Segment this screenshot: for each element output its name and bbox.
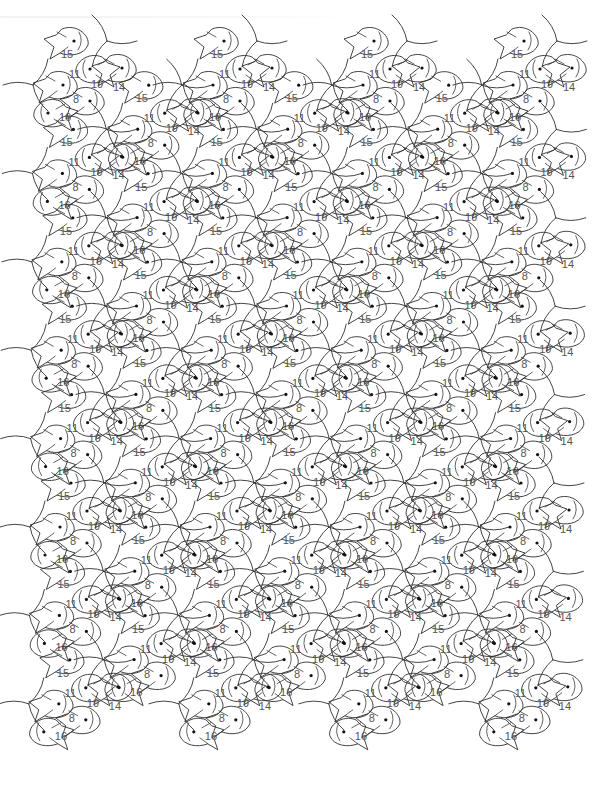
fish-eye-icon (237, 276, 240, 279)
fish-eye-icon (420, 66, 423, 69)
fish-eye-icon (357, 702, 360, 705)
fish-eye-icon (297, 84, 300, 87)
fish-eye-icon (495, 199, 498, 202)
fish-eye-icon (61, 83, 64, 86)
fish-eye-icon (270, 155, 273, 158)
fish-eye-icon (342, 553, 345, 556)
color-number-label: 15 (135, 269, 147, 281)
fish-eye-icon (84, 718, 87, 721)
fish-eye-icon (120, 66, 123, 69)
coloring-page: 8161115191481611151914816111519148161115… (0, 0, 608, 802)
fish-eye-icon (160, 674, 163, 677)
color-number-label: 19 (316, 122, 328, 134)
fish-eye-icon (237, 365, 240, 368)
fish-eye-icon (567, 508, 570, 511)
fish-eye-icon (311, 409, 314, 412)
color-number-label: 11 (217, 333, 228, 345)
color-number-label: 8 (519, 712, 525, 724)
fish-eye-icon (538, 156, 541, 159)
fish-eye-icon (72, 128, 75, 131)
color-number-label: 11 (65, 687, 76, 699)
fish-eye-icon (267, 597, 270, 600)
color-number-label: 11 (68, 156, 79, 168)
fish-eye-icon (445, 437, 448, 440)
color-number-label: 19 (240, 166, 252, 178)
fish-eye-icon (42, 730, 45, 733)
fish-eye-icon (119, 332, 122, 335)
fish-eye-icon (460, 674, 463, 677)
color-number-label: 19 (388, 520, 400, 532)
color-number-label: 15 (57, 578, 69, 590)
fish-eye-icon (117, 508, 120, 511)
fish-eye-icon (520, 393, 523, 396)
fish-eye-icon (534, 686, 537, 689)
fish-eye-icon (420, 155, 423, 158)
fish-eye-icon (85, 541, 88, 544)
color-number-label: 15 (136, 92, 148, 104)
color-number-label: 11 (69, 68, 80, 80)
fish-eye-icon (68, 658, 71, 661)
color-number-label: 19 (462, 653, 474, 665)
color-number-label: 19 (89, 432, 101, 444)
fish-eye-icon (568, 420, 571, 423)
color-number-label: 15 (285, 181, 297, 193)
color-number-label: 8 (148, 137, 154, 149)
fish-eye-icon (311, 377, 314, 380)
color-number-label: 8 (221, 358, 227, 370)
color-number-label: 19 (390, 255, 402, 267)
fish-eye-icon (192, 553, 195, 556)
color-number-label: 11 (517, 422, 528, 434)
color-number-label: 8 (373, 93, 379, 105)
color-number-label: 11 (369, 68, 380, 80)
color-number-label: 8 (448, 137, 454, 149)
color-number-label: 11 (216, 510, 227, 522)
color-number-label: 11 (366, 510, 377, 522)
color-number-label: 16 (59, 111, 71, 123)
color-number-label: 11 (440, 643, 451, 655)
color-number-label: 19 (463, 564, 475, 576)
color-number-label: 19 (315, 211, 327, 223)
fish-eye-icon (419, 243, 422, 246)
fish-eye-icon (345, 111, 348, 114)
fish-eye-icon (388, 99, 391, 102)
color-number-label: 15 (358, 490, 370, 502)
color-number-label: 8 (369, 712, 375, 724)
color-number-label: 19 (465, 299, 477, 311)
fish-eye-icon (313, 232, 316, 235)
fish-eye-icon (144, 614, 147, 617)
fish-eye-icon (294, 526, 297, 529)
color-number-label: 8 (446, 402, 452, 414)
color-number-label: 11 (519, 68, 530, 80)
fish-eye-icon (84, 686, 87, 689)
color-number-label: 15 (360, 136, 372, 148)
color-number-label: 8 (369, 623, 375, 635)
fish-eye-icon (388, 156, 391, 159)
color-number-label: 8 (223, 93, 229, 105)
fish-eye-icon (162, 320, 165, 323)
color-number-label: 11 (144, 112, 155, 124)
fish-eye-icon (462, 288, 465, 291)
color-number-label: 19 (312, 653, 324, 665)
color-number-label: 11 (217, 422, 228, 434)
fish-eye-icon (461, 497, 464, 500)
fish-eye-icon (384, 686, 387, 689)
color-number-label: 8 (72, 181, 78, 193)
color-number-label: 19 (238, 520, 250, 532)
color-number-label: 8 (71, 447, 77, 459)
color-number-label: 11 (516, 510, 527, 522)
fish-eye-icon (222, 39, 225, 42)
fish-eye-icon (537, 244, 540, 247)
color-number-label: 15 (210, 225, 222, 237)
fish-eye-icon (385, 509, 388, 512)
color-number-label: 11 (215, 687, 226, 699)
color-number-label: 16 (56, 553, 68, 565)
fish-eye-icon (519, 570, 522, 573)
fish-eye-icon (446, 260, 449, 263)
color-number-label: 19 (240, 255, 252, 267)
fish-eye-icon (444, 614, 447, 617)
fish-eye-icon (163, 144, 166, 147)
fish-eye-icon (536, 421, 539, 424)
color-number-label: 14 (560, 523, 572, 535)
color-number-label: 11 (142, 377, 153, 389)
fish-eye-icon (192, 641, 195, 644)
